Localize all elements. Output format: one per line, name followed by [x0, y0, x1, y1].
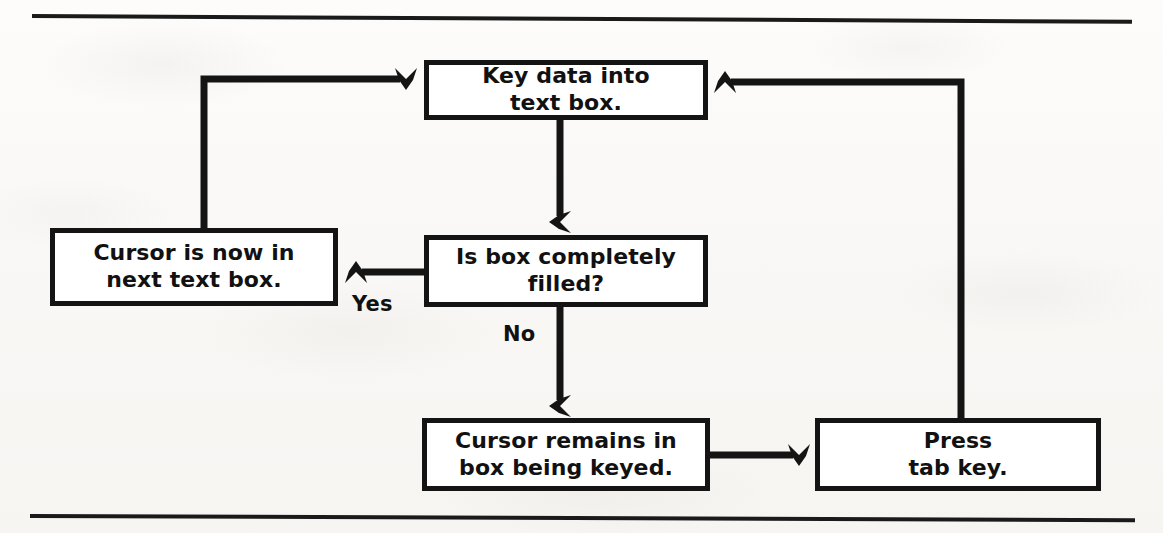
top-horizontal-rule: [32, 14, 1132, 24]
flow-node-press-tab-key[interactable]: Press tab key.: [815, 418, 1101, 491]
bottom-horizontal-rule: [30, 514, 1135, 522]
edge-cursor-next-to-key-data: [204, 79, 400, 228]
flow-node-cursor-remains-in-box-being-keyed[interactable]: Cursor remains in box being keyed.: [422, 418, 710, 491]
flow-node-key-data[interactable]: Key data into text box.: [424, 60, 708, 120]
flow-node-cursor-is-now-in-next-text-box-label: Cursor is now in next text box.: [93, 240, 294, 294]
edge-label-no: No: [503, 322, 535, 346]
flow-node-key-data-label: Key data into text box.: [482, 63, 649, 117]
flow-node-cursor-remains-in-box-being-keyed-label: Cursor remains in box being keyed.: [455, 428, 677, 482]
flow-node-is-box-completely-filled-label: Is box completely filled?: [456, 244, 676, 298]
edge-label-yes: Yes: [352, 292, 393, 316]
flow-node-is-box-completely-filled[interactable]: Is box completely filled?: [424, 235, 708, 307]
scanned-page: Key data into text box. Is box completel…: [0, 0, 1163, 533]
edge-press-tab-to-key-data: [731, 82, 961, 418]
flow-node-press-tab-key-label: Press tab key.: [908, 428, 1007, 482]
flow-node-cursor-is-now-in-next-text-box[interactable]: Cursor is now in next text box.: [50, 228, 338, 306]
